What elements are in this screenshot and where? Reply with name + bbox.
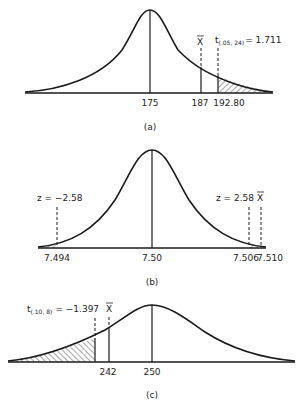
figure-a-xbar-tick: 187 (191, 98, 208, 108)
figure-b-lower-critical-label: z = −2.58 (37, 193, 83, 203)
figure-b-lower-tick: 7.494 (44, 253, 70, 263)
figure-b-upper-critical-label: z = 2.58 (216, 193, 254, 203)
figure-c-caption: (c) (146, 390, 158, 400)
figure-c-xbar-symbol: X (106, 304, 112, 314)
figure-c-xbar-tick: 242 (99, 367, 116, 377)
figure-a-xbar-symbol: X (197, 37, 203, 47)
figure-a-caption: (a) (144, 122, 157, 132)
figure-b-mean-tick: 7.50 (142, 253, 162, 263)
figure-a-critical-label: t(.05, 24)= 1.711 (215, 35, 281, 46)
figure-a-distribution-curve (25, 10, 273, 92)
figure-b-xbar-symbol: X (257, 193, 263, 203)
figure-b: z = −2.58 z = 2.58 X 7.494 7.50 7.506 7.… (37, 150, 283, 287)
figure-a-critical-tick: 192.80 (213, 98, 245, 108)
figure-b-upper-tick: 7.506 (233, 253, 259, 263)
figure-a: X t(.05, 24)= 1.711 175 187 192.80 (a) (25, 10, 281, 132)
figure-c-critical-label: t(.10, 8)= −1.397 (27, 304, 99, 315)
figure-c-shaded-left-tail (8, 338, 95, 362)
figure-c: t(.10, 8)= −1.397 X 242 250 (c) (8, 303, 295, 400)
figure-b-xbar-tick: 7.510 (257, 253, 283, 263)
hypothesis-test-diagrams: X t(.05, 24)= 1.711 175 187 192.80 (a) z… (0, 0, 299, 406)
figure-a-mean-tick: 175 (141, 98, 158, 108)
figure-b-caption: (b) (146, 277, 159, 287)
figure-c-mean-tick: 250 (143, 367, 160, 377)
